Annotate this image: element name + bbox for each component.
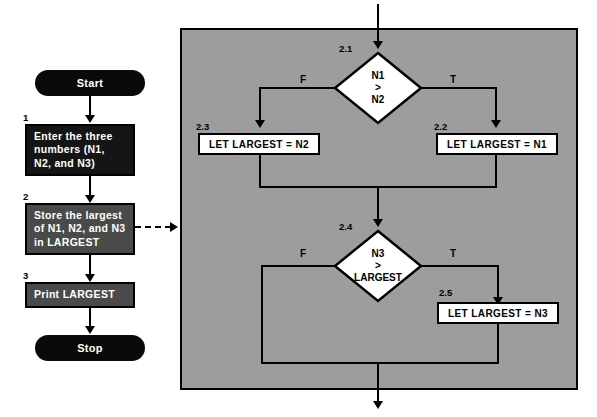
arrowhead-2-1-true [491,120,501,128]
step-number-1: 1 [23,113,28,123]
node-stop-label: Stop [77,342,103,354]
arrowhead-panel-entry [373,41,383,49]
node-step-1-line-1: Enter the three [34,130,113,144]
connector-2-1-false-horizontal [259,87,335,89]
connector-2-4-true-horizontal [421,265,499,267]
node-stop: Stop [35,335,145,361]
flowchart-canvas: Start 1 Enter the three numbers (N1, N2,… [0,0,597,417]
connector-step2-to-panel-dashed [135,226,171,228]
node-start-label: Start [77,77,104,89]
node-action-2-2: LET LARGEST = N1 [436,133,558,155]
step-number-2: 2 [23,192,28,202]
arrowhead-step1-to-step2 [85,195,95,203]
node-action-2-3: LET LARGEST = N2 [198,133,320,155]
connector-2-4-false-vertical [261,265,263,364]
arrowhead-step2-to-step3 [85,274,95,282]
arrowhead-step3-to-stop [85,326,95,334]
node-action-2-5: LET LARGEST = N3 [437,302,559,324]
step-number-3: 3 [23,271,28,281]
node-decision-2-4: N3 > LARGEST [333,229,423,303]
node-action-2-3-label: LET LARGEST = N2 [209,139,309,150]
arrowhead-2-1-false [255,120,265,128]
node-step-3-label: Print LARGEST [34,288,115,302]
node-step-1-line-2: numbers (N1, [34,143,113,157]
connector-panel-exit [377,362,379,404]
node-start: Start [35,70,145,96]
branch-label-true-2-4: T [450,249,456,259]
arrowhead-panel-exit [373,401,383,409]
node-step-1: Enter the three numbers (N1, N2, and N3) [25,124,135,176]
branch-label-false-2-1: F [300,75,306,85]
connector-2-5-down [497,324,499,364]
step-number-2-2: 2.2 [434,122,447,132]
arrowhead-start-to-step1 [85,115,95,123]
connector-2-1-false-vertical [259,87,261,123]
arrowhead-step2-to-panel [170,222,178,232]
node-action-2-5-label: LET LARGEST = N3 [448,308,548,319]
step-number-2-5: 2.5 [439,288,452,298]
node-step-3: Print LARGEST [25,282,135,308]
node-decision-2-1: N1 > N2 [333,51,423,125]
branch-label-false-2-4: F [300,249,306,259]
arrowhead-merge-1-to-2-4 [373,219,383,227]
node-step-2-line-2: of N1, N2, and N3 [34,222,125,236]
connector-2-4-false-horizontal [261,265,335,267]
node-step-2: Store the largest of N1, N2, and N3 in L… [25,203,135,255]
decision-2-4-shape [333,229,423,303]
connector-merge-1-to-2-4 [377,186,379,222]
decision-2-1-shape [333,51,423,125]
connector-merge-2 [261,362,499,364]
connector-2-1-true-horizontal [421,87,497,89]
connector-2-1-true-vertical [495,87,497,123]
node-step-1-line-3: N2, and N3) [34,157,113,171]
node-step-2-line-3: in LARGEST [34,236,125,250]
connector-2-3-down [259,155,261,188]
step-number-2-3: 2.3 [196,122,209,132]
branch-label-true-2-1: T [450,75,456,85]
connector-panel-entry [377,4,379,44]
connector-2-4-true-vertical [497,265,499,300]
node-action-2-2-label: LET LARGEST = N1 [447,139,547,150]
node-step-2-line-1: Store the largest [34,209,125,223]
connector-2-2-down [495,155,497,188]
